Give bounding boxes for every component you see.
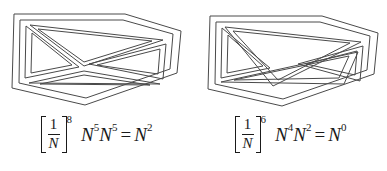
nonplanar-ribbon-graph-diagram <box>194 4 387 112</box>
bracket-right: 1 N <box>235 116 261 153</box>
planar-ribbon-graph-diagram <box>0 4 193 112</box>
outer-boundary-outer-edge <box>12 14 181 105</box>
fraction-numerator-right: 1 <box>242 117 254 135</box>
panel-right: 1 N 6 N4N2=N0 <box>194 0 387 171</box>
equals-right: = <box>311 125 328 144</box>
result-left: N2 <box>134 125 152 144</box>
bracket-exponent-left: 8 <box>67 114 73 125</box>
face-top-outline <box>30 25 163 66</box>
factor2-left: N5 <box>99 125 117 144</box>
bracketed-power-right: 1 N 6 <box>235 116 267 153</box>
formula-right: 1 N 6 N4N2=N0 <box>194 116 387 153</box>
nonplanar-ribbon-graph-svg <box>194 4 387 112</box>
factor1-right: N4 <box>275 125 293 144</box>
fraction-denominator-left: N <box>48 135 60 152</box>
figure-root: 1 N 8 N5N5=N2 <box>0 0 387 171</box>
panel-left: 1 N 8 N5N5=N2 <box>0 0 193 171</box>
fraction-one-over-n-left: 1 N <box>46 116 62 153</box>
planar-ribbon-graph-svg <box>0 4 193 112</box>
outer-boundary-outer-edge <box>208 16 378 106</box>
formula-left: 1 N 8 N5N5=N2 <box>0 116 193 153</box>
face-top-inner-outline <box>38 29 152 62</box>
fraction-numerator-left: 1 <box>48 117 60 135</box>
bracketed-power-left: 1 N 8 <box>41 116 73 153</box>
face-left-inner-outline <box>227 35 263 73</box>
face-right-inner-outline <box>97 49 160 74</box>
result-right: N0 <box>328 125 346 144</box>
bracket-exponent-right: 6 <box>261 114 267 125</box>
fraction-one-over-n-right: 1 N <box>240 116 256 153</box>
factor2-right: N2 <box>293 125 311 144</box>
equals-left: = <box>117 125 134 144</box>
factor1-left: N5 <box>81 125 99 144</box>
bracket-left: 1 N <box>41 116 67 153</box>
fraction-denominator-right: N <box>242 135 254 152</box>
